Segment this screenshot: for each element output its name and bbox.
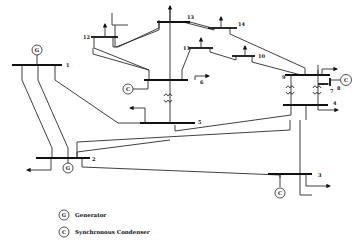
svg-text:11: 11 xyxy=(183,45,190,51)
condenser-bus-3: C xyxy=(275,174,285,198)
svg-text:9: 9 xyxy=(282,74,286,80)
legend: G Generator C Synchronous Condenser xyxy=(59,210,150,237)
generator-bus-1: G xyxy=(32,45,42,65)
transformer-4-7 xyxy=(313,86,321,94)
buses xyxy=(12,22,330,174)
svg-text:C: C xyxy=(126,86,130,92)
svg-text:7: 7 xyxy=(330,88,334,94)
load-arrow-icon xyxy=(130,108,145,123)
load-arrow-icon xyxy=(27,158,51,170)
svg-text:12: 12 xyxy=(83,34,90,40)
ieee-14-bus-diagram: G G C C C 1 2 3 4 5 6 7 8 9 10 11 12 13 … xyxy=(0,0,359,248)
svg-text:6: 6 xyxy=(200,79,204,85)
svg-text:10: 10 xyxy=(258,53,265,59)
svg-text:G: G xyxy=(62,212,66,218)
svg-text:Synchronous Condenser: Synchronous Condenser xyxy=(75,229,150,236)
svg-text:Generator: Generator xyxy=(75,212,106,218)
svg-text:C: C xyxy=(344,77,348,83)
svg-text:C: C xyxy=(278,190,282,196)
transformer-4-9 xyxy=(286,86,294,94)
generator-bus-2: G xyxy=(63,158,73,173)
svg-text:4: 4 xyxy=(333,100,337,106)
svg-text:13: 13 xyxy=(187,14,194,20)
svg-text:2: 2 xyxy=(92,156,96,162)
svg-text:5: 5 xyxy=(198,119,202,125)
svg-text:8: 8 xyxy=(337,85,341,91)
svg-text:14: 14 xyxy=(238,21,245,27)
transformer-5-6 xyxy=(164,94,172,102)
svg-text:3: 3 xyxy=(318,172,322,178)
condenser-bus-6: C xyxy=(123,80,148,94)
svg-text:G: G xyxy=(66,165,70,171)
condenser-bus-8: C xyxy=(330,75,352,86)
legend-generator: G Generator xyxy=(59,210,106,220)
svg-text:1: 1 xyxy=(66,62,69,68)
svg-text:C: C xyxy=(62,229,66,235)
legend-condenser: C Synchronous Condenser xyxy=(59,227,150,237)
svg-text:G: G xyxy=(35,47,39,53)
